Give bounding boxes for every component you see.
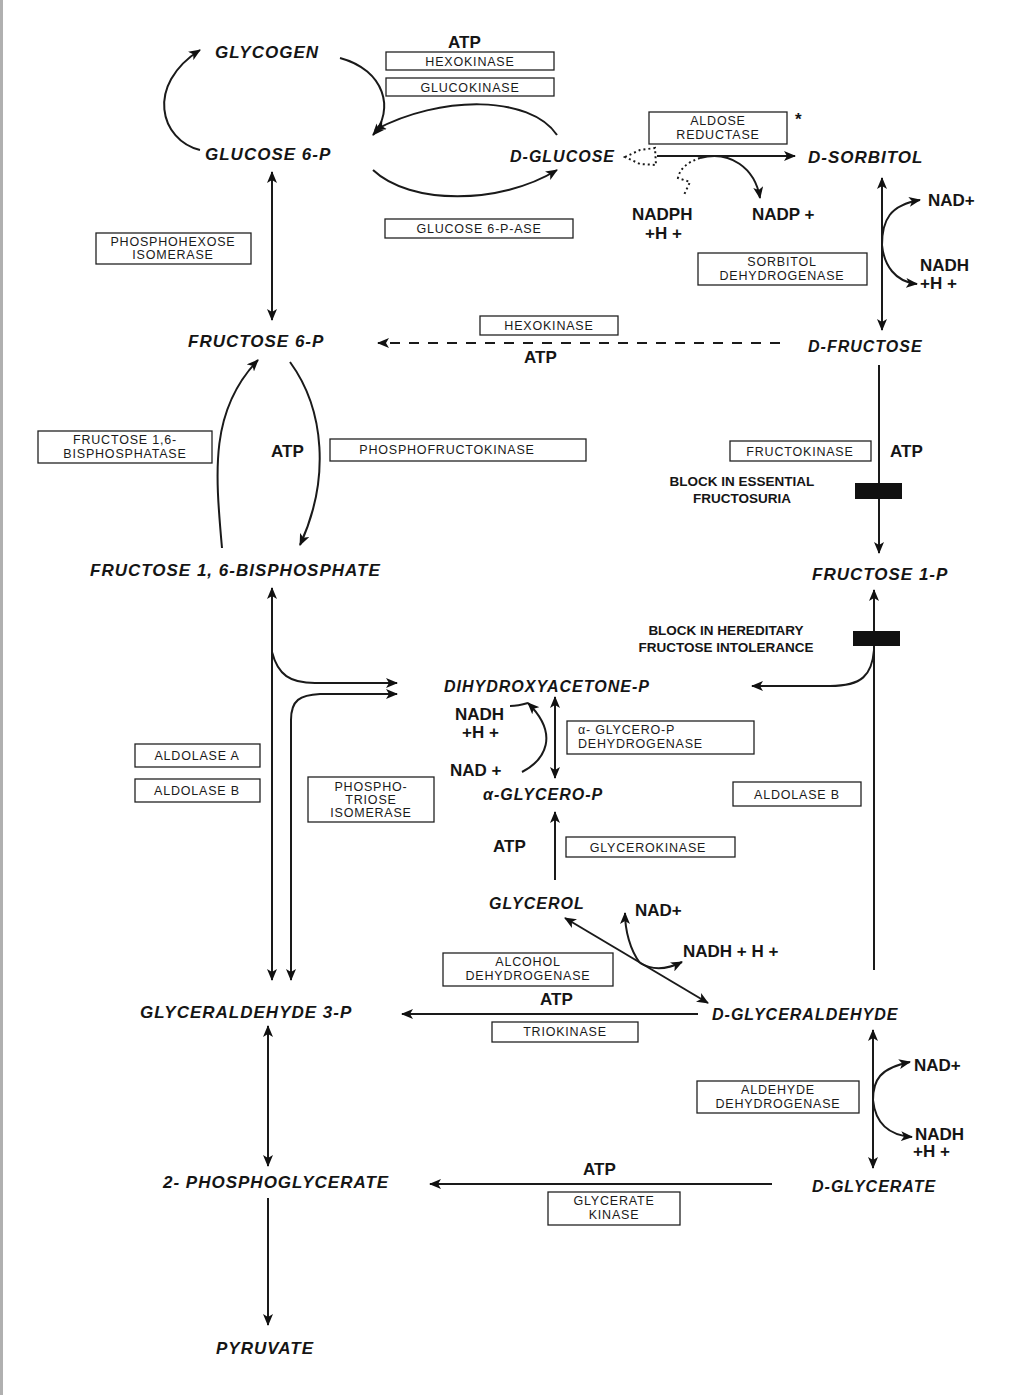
metabolite-glyceraldehyde-3p: GLYCERALDEHYDE 3-P — [140, 1003, 352, 1022]
cofactor-nadh-glycerop: NADH — [455, 705, 504, 724]
enzyme-triokinase: TRIOKINASE — [523, 1025, 607, 1039]
enzyme-aldehyde-dehydrogenase-line1: ALDEHYDE — [741, 1083, 815, 1097]
enzyme-hexokinase-mid: HEXOKINASE — [504, 319, 593, 333]
cofactor-nadph: NADPH — [632, 205, 692, 224]
metabolite-d-glyceraldehyde: D-GLYCERALDEHYDE — [712, 1006, 899, 1023]
enzyme-glycerokinase: GLYCEROKINASE — [590, 841, 706, 855]
block-label-hereditary-line2: FRUCTOSE INTOLERANCE — [638, 640, 813, 655]
block-label-essential-fructosuria-line1: BLOCK IN ESSENTIAL — [670, 474, 815, 489]
metabolite-d-fructose: D-FRUCTOSE — [808, 338, 923, 355]
arrow-glucose-to-g6p — [375, 104, 557, 135]
enzyme-alcohol-dehydrogenase-line2: DEHYDROGENASE — [465, 969, 590, 983]
metabolite-d-glycerate: D-GLYCERATE — [812, 1178, 937, 1195]
metabolite-d-sorbitol: D-SORBITOL — [808, 148, 923, 167]
enzyme-phosphohexose-isomerase-line1: PHOSPHOHEXOSE — [110, 235, 235, 249]
enzyme-glycerate-kinase-line1: GLYCERATE — [573, 1194, 654, 1208]
arrow-glycogen-to-g6p — [340, 58, 384, 135]
cofactor-atp-glycerate: ATP — [583, 1160, 616, 1179]
metabolite-dihydroxyacetone-p: DIHYDROXYACETONE-P — [444, 678, 650, 695]
arrow-g3p-dhap-isomerase — [291, 694, 397, 980]
enzyme-aldose-reductase-line2: REDUCTASE — [676, 128, 759, 142]
metabolite-fructose-16-bisphosphate: FRUCTOSE 1, 6-BISPHOSPHATE — [90, 561, 381, 580]
scan-edge — [0, 0, 3, 1395]
enzyme-fructose-bisphosphatase-line1: FRUCTOSE 1,6- — [73, 433, 177, 447]
enzyme-aldose-reductase-line1: ALDOSE — [690, 114, 746, 128]
metabolite-glycogen: GLYCOGEN — [215, 43, 319, 62]
enzyme-sorbitol-dehydrogenase-line2: DEHYDROGENASE — [719, 269, 844, 283]
enzyme-glucose-6-pase: GLUCOSE 6-P-ASE — [416, 222, 541, 236]
cofactor-nad-sorbitol: NAD+ — [928, 191, 975, 210]
enzyme-glycerate-kinase-line2: KINASE — [589, 1208, 640, 1222]
metabolite-pyruvate: PYRUVATE — [216, 1339, 314, 1358]
cofactor-atp-pfk: ATP — [271, 442, 304, 461]
block-label-essential-fructosuria-line2: FRUCTOSURIA — [693, 491, 791, 506]
enzyme-phosphofructokinase: PHOSPHOFRUCTOKINASE — [359, 443, 534, 457]
enzyme-hexokinase: HEXOKINASE — [425, 55, 514, 69]
enzyme-phosphotriose-isomerase-line2: TRIOSE — [345, 793, 396, 807]
arrow-f16bp-to-f6p — [218, 360, 258, 548]
arrow-f1p-to-dhap — [752, 650, 874, 686]
block-bar-essential-fructosuria — [855, 483, 902, 499]
cofactor-nad-glycerop: NAD + — [450, 761, 502, 780]
metabolite-glucose-6p: GLUCOSE 6-P — [205, 145, 331, 164]
enzyme-aldolase-a: ALDOLASE A — [154, 749, 239, 763]
enzyme-alcohol-dehydrogenase-line1: ALCOHOL — [495, 955, 560, 969]
enzyme-phosphotriose-isomerase-line1: PHOSPHO- — [334, 780, 407, 794]
enzyme-glucokinase: GLUCOKINASE — [420, 81, 519, 95]
metabolite-fructose-1p: FRUCTOSE 1-P — [812, 565, 948, 584]
cofactor-nadh-glycerop-h: +H + — [462, 723, 499, 742]
fructose-metabolism-pathway-diagram: GLYCOGEN GLUCOSE 6-P D-GLUCOSE ATP HEXOK… — [0, 0, 1013, 1395]
cofactor-atp-fructokinase: ATP — [890, 442, 923, 461]
arrow-g6p-to-glucose — [373, 170, 557, 196]
cofactor-nadh-sorbitol: NADH — [920, 256, 969, 275]
cofactor-atp-glycerokinase: ATP — [493, 837, 526, 856]
arrow-nadh-to-nad-glycerop — [522, 703, 546, 772]
cofactor-nad-alcohol: NAD+ — [635, 901, 682, 920]
block-bar-hereditary-intolerance — [853, 631, 900, 646]
arrow-nadh-aldehyde — [873, 1100, 912, 1137]
enzyme-sorbitol-dehydrogenase-line1: SORBITOL — [747, 255, 816, 269]
cofactor-nadph-h: +H + — [645, 224, 682, 243]
metabolite-fructose-6p: FRUCTOSE 6-P — [188, 332, 324, 351]
enzyme-glycerop-dehydrogenase-line1: α- GLYCERO-P — [578, 723, 675, 737]
cofactor-nadh-aldehyde-h: +H + — [913, 1142, 950, 1161]
arrow-nadh-sorbitol — [882, 245, 917, 284]
cofactor-nadh-sorbitol-h: +H + — [920, 274, 957, 293]
enzyme-glycerop-dehydrogenase-line2: DEHYDROGENASE — [578, 737, 703, 751]
arrow-nadp-out — [700, 156, 760, 198]
dotted-glucose-connector — [625, 148, 656, 165]
enzyme-fructokinase: FRUCTOKINASE — [746, 445, 853, 459]
arrow-nad-aldehyde — [873, 1062, 910, 1100]
enzyme-phosphotriose-isomerase-line3: ISOMERASE — [330, 806, 412, 820]
enzyme-phosphohexose-isomerase-line2: ISOMERASE — [132, 248, 214, 262]
arrow-nad-sorbitol — [882, 200, 920, 245]
dotted-nadph-in — [678, 158, 700, 195]
metabolite-2-phosphoglycerate: 2- PHOSPHOGLYCERATE — [162, 1173, 389, 1192]
cofactor-nad-aldehyde: NAD+ — [914, 1056, 961, 1075]
metabolite-glycerol: GLYCEROL — [489, 895, 585, 912]
enzyme-aldolase-b-right: ALDOLASE B — [754, 788, 840, 802]
cofactor-atp-triokinase: ATP — [540, 990, 573, 1009]
aldose-reductase-asterisk: * — [795, 110, 802, 129]
cofactor-atp-f6p: ATP — [524, 348, 557, 367]
metabolite-alpha-glycero-p: α-GLYCERO-P — [483, 786, 603, 803]
cofactor-nadp: NADP + — [752, 205, 815, 224]
arrow-g6p-to-glycogen — [164, 50, 200, 150]
block-label-hereditary-line1: BLOCK IN HEREDITARY — [648, 623, 803, 638]
metabolite-d-glucose: D-GLUCOSE — [510, 148, 615, 165]
enzyme-aldolase-b-left: ALDOLASE B — [154, 784, 240, 798]
cofactor-nadh-alcohol: NADH + H + — [683, 942, 778, 961]
arrow-nadh-tail — [510, 703, 528, 706]
cofactor-atp-hexokinase: ATP — [448, 33, 481, 52]
arrow-f16bp-to-dhap — [272, 652, 397, 683]
enzyme-fructose-bisphosphatase-line2: BISPHOSPHATASE — [63, 447, 186, 461]
enzyme-aldehyde-dehydrogenase-line2: DEHYDROGENASE — [715, 1097, 840, 1111]
